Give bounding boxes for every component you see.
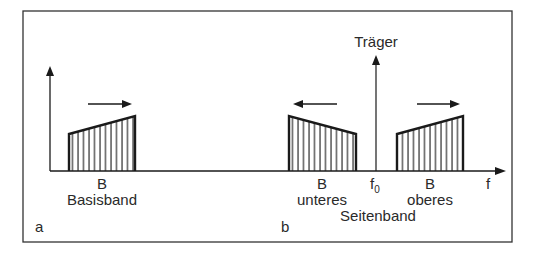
arrow-right-icon [417, 100, 460, 108]
spectrum-diagram [0, 0, 537, 254]
basisband-bandwidth-label: B [97, 176, 107, 192]
sideband-label: Seitenband [340, 208, 416, 224]
basisband-spectrum [69, 116, 135, 171]
upper-sideband-label: oberes [407, 192, 453, 208]
carrier-line [372, 55, 380, 171]
arrow-right-icon [88, 100, 132, 108]
basisband-label: Basisband [67, 192, 137, 208]
arrow-left-icon [293, 100, 337, 108]
carrier-arrow-icon [372, 55, 380, 65]
carrier-label: Träger [354, 34, 398, 50]
lower-sideband-spectrum [289, 116, 356, 171]
f-axis-arrow-icon [495, 167, 506, 175]
panel-b-label: b [281, 219, 289, 235]
panel-a-label: a [35, 219, 43, 235]
upper-sideband-spectrum [397, 116, 463, 171]
y-axis-arrow-icon [46, 66, 54, 76]
carrier-frequency-label: f0 [370, 176, 380, 198]
upper-bandwidth-label: B [425, 176, 435, 192]
lower-bandwidth-label: B [317, 176, 327, 192]
frequency-axis-label: f [486, 176, 490, 192]
lower-sideband-label: unteres [297, 192, 347, 208]
